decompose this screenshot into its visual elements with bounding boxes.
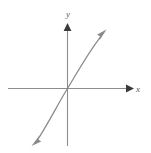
graph-figure: x y bbox=[0, 0, 151, 153]
y-axis-arrowhead-icon bbox=[64, 23, 72, 31]
y-axis-label: y bbox=[65, 9, 70, 19]
x-axis-arrowhead-icon bbox=[126, 85, 134, 93]
x-axis-label: x bbox=[135, 84, 140, 94]
coordinate-plane-svg: x y bbox=[0, 0, 151, 153]
curve-path bbox=[38, 36, 101, 139]
